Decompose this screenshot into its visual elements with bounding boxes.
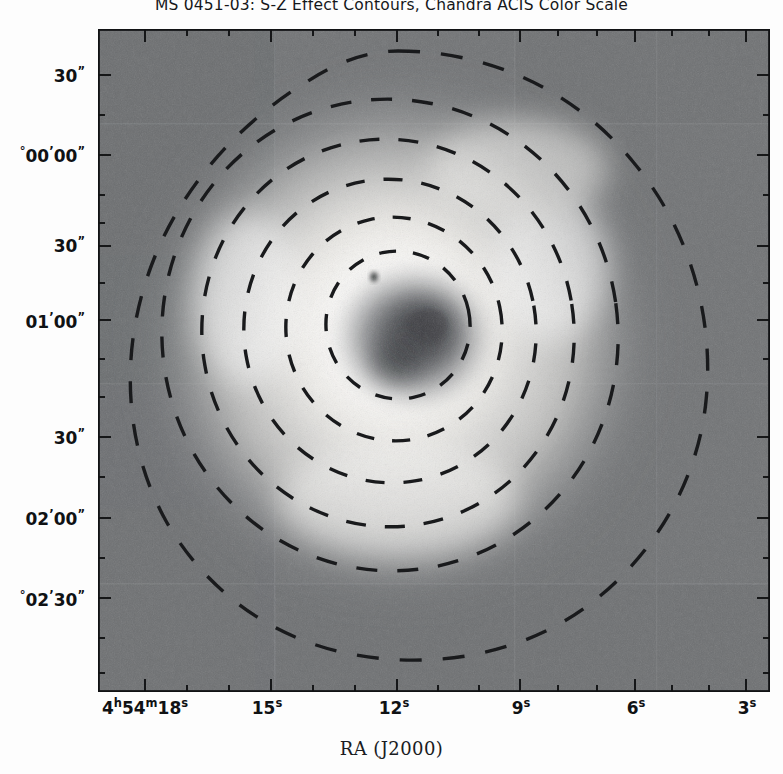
xaxis-tick-label: 9s [486,696,556,718]
page-title: MS 0451-03: S-Z Effect Contours, Chandra… [0,0,783,14]
xaxis-tick-label: 4h54m18s [85,696,205,718]
xaxis-tick-label: 12s [359,696,429,718]
plot-panel [98,29,770,692]
xaxis-title: RA (J2000) [0,738,783,759]
yaxis-tick-label: 01’00” [26,310,85,332]
xaxis-tick-label: 3s [712,696,782,718]
xaxis-tick-label: 6s [601,696,671,718]
photon-noise-coarse [98,29,770,692]
yaxis-tick-label: 30” [54,426,85,448]
figure-canvas: MS 0451-03: S-Z Effect Contours, Chandra… [0,0,783,774]
yaxis-tick-label: 30” [54,234,85,256]
yaxis-tick-label: 30” [54,64,85,86]
sky-image [98,29,770,692]
yaxis-tick-label: °02’30” [20,588,85,610]
yaxis-tick-label: °00’00” [20,144,85,166]
yaxis-tick-label: 02’00” [26,507,85,529]
xaxis-tick-label: 15s [232,696,302,718]
sky-image-svg [98,29,770,692]
